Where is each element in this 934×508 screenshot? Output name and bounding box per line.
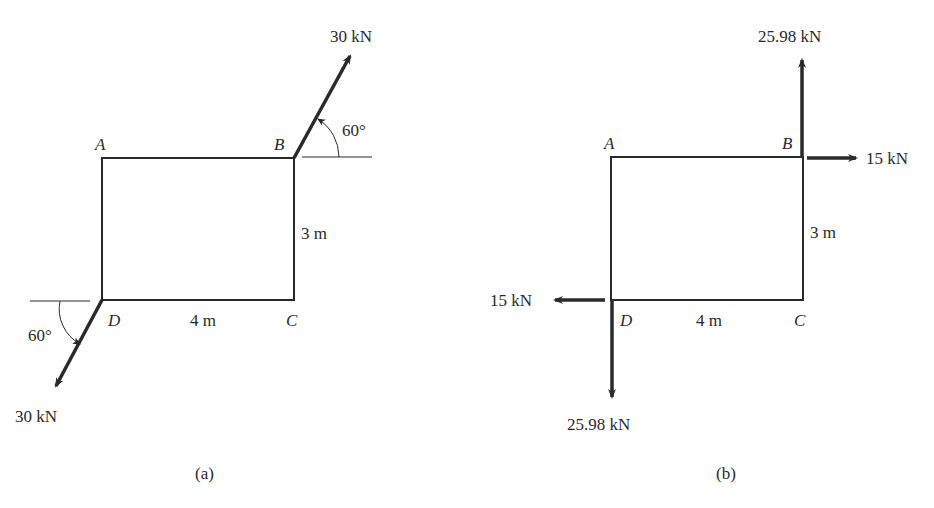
angle-arc-d (59, 301, 80, 344)
figure-b: A B C D 3 m 4 m 25.98 kN 15 kN 15 kN 25.… (490, 27, 908, 483)
dimension-vertical: 3 m (301, 224, 327, 243)
dimension-horizontal: 4 m (696, 311, 722, 330)
dimension-vertical: 3 m (810, 223, 836, 242)
force-label-b-horizontal: 15 kN (866, 149, 908, 168)
point-label-a: A (94, 135, 106, 154)
diagram-canvas: A B C D 3 m 4 m 30 kN 60° 30 kN 60° (a) … (0, 0, 934, 508)
point-label-c: C (794, 311, 806, 330)
angle-label-b: 60° (342, 121, 366, 140)
frame-rectangle (611, 157, 803, 300)
frame-rectangle (102, 158, 294, 300)
point-label-b: B (274, 135, 285, 154)
angle-label-d: 60° (28, 326, 52, 345)
dimension-horizontal: 4 m (190, 311, 216, 330)
point-label-d: D (107, 311, 121, 330)
point-label-d: D (619, 311, 633, 330)
figure-caption-a: (a) (195, 464, 214, 483)
point-label-b: B (782, 134, 793, 153)
force-label-d-horizontal: 15 kN (490, 291, 532, 310)
force-arrow-b (294, 56, 350, 158)
figure-a: A B C D 3 m 4 m 30 kN 60° 30 kN 60° (a) (15, 27, 372, 483)
force-label-d-vertical: 25.98 kN (567, 415, 630, 434)
force-label-b: 30 kN (330, 27, 372, 46)
force-label-b-vertical: 25.98 kN (758, 27, 821, 46)
angle-arc-b (318, 119, 339, 157)
point-label-a: A (603, 134, 615, 153)
point-label-c: C (286, 311, 298, 330)
force-label-d: 30 kN (15, 407, 57, 426)
figure-caption-b: (b) (716, 464, 736, 483)
